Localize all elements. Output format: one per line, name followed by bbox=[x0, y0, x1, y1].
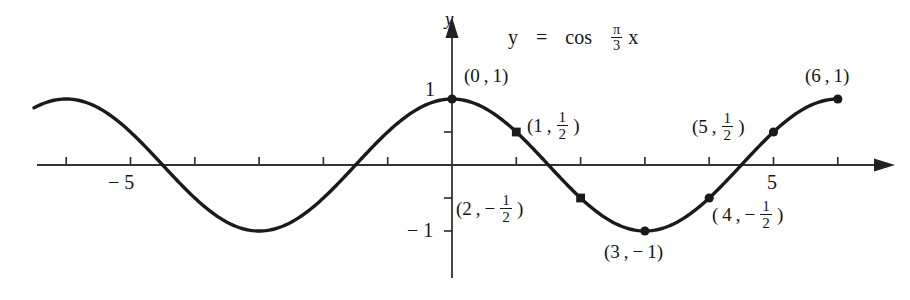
label-point-0-1-x: 0 bbox=[470, 65, 480, 86]
label-point-5-x: 5 bbox=[698, 116, 708, 137]
label-point-2-neg-half: (2,−12) bbox=[456, 192, 523, 224]
marker-point-5-half bbox=[769, 127, 778, 136]
label-point-3-x: 3 bbox=[610, 241, 620, 262]
label-point-5-fraction: 12 bbox=[722, 110, 734, 142]
label-point-2-x: 2 bbox=[462, 198, 472, 219]
equation-frac-denominator: 3 bbox=[611, 37, 622, 53]
frac-num: 1 bbox=[760, 198, 772, 214]
label-point-1-half-x: 1 bbox=[533, 115, 543, 136]
equation-label: y = cos π 3 x bbox=[508, 22, 638, 52]
label-point-6-1: (6,1) bbox=[805, 66, 849, 85]
equation-function: cos bbox=[565, 26, 592, 48]
x-axis-arrowhead bbox=[874, 159, 895, 172]
x-tick-label-5: 5 bbox=[767, 172, 777, 192]
label-point-1-half-fraction: 12 bbox=[557, 109, 569, 141]
marker-point-2-neg-half bbox=[576, 194, 585, 203]
label-point-2-fraction: 12 bbox=[500, 192, 512, 224]
equation-lhs: y bbox=[508, 26, 518, 48]
frac-num: 1 bbox=[557, 109, 569, 125]
equation-equals: = bbox=[536, 26, 547, 48]
cosine-graph-figure: y y = cos π 3 x 1 − 1 − 5 5 (0,1) (1,12)… bbox=[0, 0, 910, 300]
label-point-2-sign: − bbox=[485, 198, 496, 219]
label-point-3-neg-1: (3,−1) bbox=[604, 242, 663, 261]
label-point-6-y: 1 bbox=[834, 65, 844, 86]
label-point-6-x: 6 bbox=[811, 65, 821, 86]
label-point-4-x: 4 bbox=[722, 204, 732, 225]
frac-den: 2 bbox=[500, 208, 512, 225]
y-axis-label: y bbox=[445, 9, 453, 28]
label-point-4-fraction: 12 bbox=[760, 198, 772, 230]
x-tick-label-neg-5: − 5 bbox=[108, 172, 134, 192]
label-point-4-neg-half: (4,−12) bbox=[712, 198, 783, 230]
marker-point-0-1 bbox=[447, 94, 456, 103]
graph-canvas bbox=[0, 0, 910, 300]
equation-frac-numerator: π bbox=[611, 22, 622, 37]
marker-point-1-half bbox=[512, 128, 521, 137]
label-point-5-half: (5,12) bbox=[692, 110, 745, 142]
marker-point-3-neg-1 bbox=[640, 226, 649, 235]
label-point-0-1: (0,1) bbox=[464, 66, 508, 85]
equation-fraction: π 3 bbox=[611, 22, 622, 52]
frac-den: 2 bbox=[760, 214, 772, 231]
label-point-1-half: (1,12) bbox=[527, 109, 580, 141]
label-point-3-sign: − bbox=[633, 241, 644, 262]
y-tick-label-neg-1: − 1 bbox=[407, 220, 433, 240]
label-point-0-1-y: 1 bbox=[493, 65, 503, 86]
y-tick-label-1: 1 bbox=[425, 79, 435, 99]
label-point-4-sign: − bbox=[745, 204, 756, 225]
frac-den: 2 bbox=[722, 126, 734, 143]
frac-den: 2 bbox=[557, 125, 569, 142]
equation-variable: x bbox=[628, 26, 638, 48]
frac-num: 1 bbox=[500, 192, 512, 208]
marker-point-6-1 bbox=[833, 94, 842, 103]
frac-num: 1 bbox=[722, 110, 734, 126]
